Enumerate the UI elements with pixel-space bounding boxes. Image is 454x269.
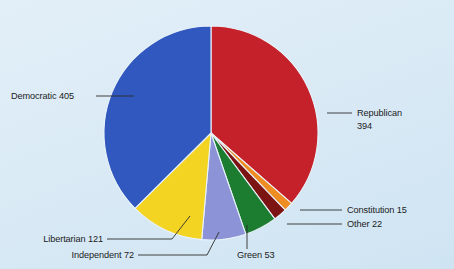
label-libertarian: Libertarian 121 xyxy=(43,234,103,244)
pie-slices-group xyxy=(104,26,318,240)
pie-chart-figure: Democratic 405 Republican 394 Libertaria… xyxy=(0,0,454,269)
pie-chart-canvas: Democratic 405 Republican 394 Libertaria… xyxy=(0,0,454,269)
label-democratic: Democratic 405 xyxy=(11,91,74,101)
label-republican-value: 394 xyxy=(357,121,372,131)
label-green: Green 53 xyxy=(237,250,275,260)
label-constitution: Constitution 15 xyxy=(347,205,407,215)
label-independent: Independent 72 xyxy=(72,250,134,260)
label-republican-name: Republican xyxy=(357,108,402,118)
label-other: Other 22 xyxy=(347,219,382,229)
